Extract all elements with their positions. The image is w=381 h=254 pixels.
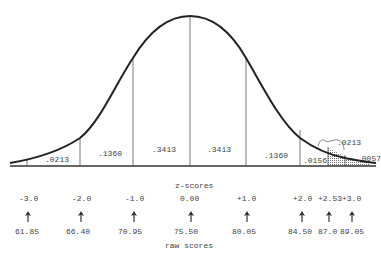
area-label-m2-m1: .1360 [98,150,122,158]
z-tick-m2: -2.0 [72,195,91,203]
raw-tick-p253: 87.0 [318,228,337,236]
area-label-m1-0: .3413 [152,146,176,154]
z-axis-label: z-scores [175,182,213,190]
z-tick-p1: +1.0 [237,195,256,203]
arrow-up-icon [187,211,195,222]
z-tick-0: 0.00 [180,195,199,203]
arrow-up-icon [24,211,32,222]
arrow-up-icon [348,211,356,222]
z-tick-p253: +2.53 [318,195,342,203]
z-tick-0m1: -1.0 [125,195,144,203]
raw-tick-p3: 89.05 [340,228,364,236]
area-label-m3-m2: .0213 [45,156,69,164]
normal-curve-diagram: .0213 .1360 .3413 .3413 .1360 .0156 .005… [0,0,381,254]
area-label-p2-p253: .0156 [303,157,327,165]
raw-tick-p2: 84.50 [288,228,312,236]
arrow-up-icon [77,211,85,222]
z-tick-p3: +3.0 [342,195,361,203]
raw-tick-m1: 70.95 [118,228,142,236]
arrow-up-icon [298,211,306,222]
area-label-bracket: .0213 [337,139,361,147]
area-label-p1-p2: .1360 [264,152,288,160]
arrow-up-icon [325,211,333,222]
arrow-up-icon [130,211,138,222]
z-tick-p2: +2.0 [293,195,312,203]
raw-tick-m2: 66.40 [66,228,90,236]
raw-tick-0: 75.50 [174,228,198,236]
raw-axis-label: raw scores [165,242,213,250]
z-tick-m3: -3.0 [19,195,38,203]
raw-tick-m3: 61.85 [15,228,39,236]
area-label-p253-p3: .0057 [357,155,381,163]
arrow-up-icon [243,211,251,222]
bell-curve [10,16,376,163]
area-label-0-p1: .3413 [207,146,231,154]
raw-tick-p1: 80.05 [232,228,256,236]
